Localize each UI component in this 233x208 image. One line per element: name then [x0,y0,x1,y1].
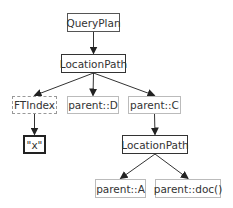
node-parent-doc: parent::doc() [155,179,221,198]
node-locationpath-root: LocationPath [61,54,126,73]
node-text-x: "x" [23,135,46,154]
node-parent-d: parent::D [67,96,119,114]
node-ftindex: FTIndex [12,96,57,114]
node-queryplan: QueryPlan [67,13,120,32]
node-parent-a: parent::A [95,179,146,198]
edge-locpath1-parentC [94,73,155,96]
edge-locpath1-ftindex [35,73,94,96]
edge-parentC-locpath2 [155,114,156,135]
node-parent-c: parent::C [128,96,181,114]
edge-locpath2-parentdoc [155,154,188,179]
query-plan-diagram: QueryPlan LocationPath FTIndex parent::D… [0,0,233,208]
edge-locpath2-parentA [121,154,156,179]
node-locationpath-child: LocationPath [122,135,188,154]
edge-locpath1-parentD [93,73,94,96]
